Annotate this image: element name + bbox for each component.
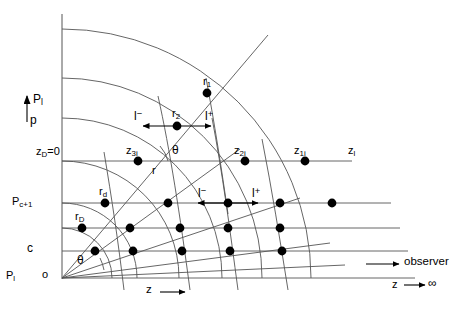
l-minus-upper-label: l− — [134, 110, 142, 122]
shell-d — [262, 139, 288, 290]
theta-arc-upper — [160, 146, 168, 161]
z-l-label: zl — [348, 145, 355, 158]
arc-r1 — [62, 29, 311, 278]
node-c5 — [276, 224, 285, 233]
node-b4 — [276, 199, 285, 208]
p-one-label: Pl — [6, 270, 15, 283]
node-d1 — [91, 247, 100, 256]
node-c2 — [126, 224, 135, 233]
radiative-transfer-grid-figure: Pl p zD=0 Pc+1 c Pl o r1 r2 rd rD z3i z2… — [0, 0, 465, 311]
level-c-label: c — [27, 242, 33, 254]
ray-3 — [62, 198, 300, 278]
z-3i-label: z3i — [126, 145, 138, 158]
radial-distance-label: r — [152, 165, 156, 176]
diagram-canvas — [0, 0, 465, 311]
node-r1 — [203, 89, 212, 98]
theta-label-upper: θ — [172, 144, 179, 156]
node-rd — [101, 199, 110, 208]
radius-arcs — [62, 29, 311, 278]
origin-label: o — [42, 269, 48, 280]
l-minus-lower-label: l− — [198, 187, 206, 199]
theta-label-lower: θ — [77, 254, 84, 266]
z-axis-label: z — [146, 284, 152, 296]
p-axis-label: Pl — [33, 93, 43, 107]
l-plus-upper-label: l+ — [205, 110, 213, 122]
l-plus-lower-label: l+ — [252, 187, 260, 199]
node-c4 — [224, 224, 233, 233]
node-d3 — [178, 247, 187, 256]
node-d4 — [226, 247, 235, 256]
arc-rD — [62, 228, 112, 278]
z-1i-label: z1i — [294, 145, 306, 158]
node-rD — [78, 224, 87, 233]
p-axis-label-secondary: p — [30, 114, 37, 126]
node-d5 — [278, 247, 287, 256]
z-limit-var: z — [392, 279, 398, 290]
p-c-plus-1-label: Pc+1 — [12, 196, 32, 209]
r-D-label: rD — [75, 211, 84, 224]
node-d2 — [129, 247, 138, 256]
r-1-label: r1 — [203, 76, 211, 89]
arc-rD2 — [62, 203, 137, 278]
z-limit-value: ∞ — [428, 277, 437, 289]
r-2-label: r2 — [172, 108, 180, 121]
node-b2 — [164, 199, 173, 208]
observer-label: observer — [404, 256, 449, 268]
z-d-zero-label: zD=0 — [36, 146, 60, 159]
node-b5 — [328, 199, 337, 208]
node-c3 — [176, 224, 185, 233]
z-2i-label: z2i — [234, 145, 246, 158]
r-d-label: rd — [99, 186, 107, 199]
ray-5 — [62, 265, 345, 278]
